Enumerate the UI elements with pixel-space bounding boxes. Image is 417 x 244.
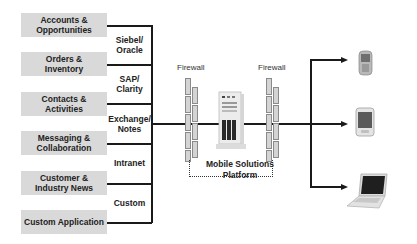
source-label: Contacts & [42, 94, 87, 104]
connector-line [107, 183, 152, 185]
connector-line [107, 222, 152, 224]
pda-icon [355, 107, 375, 137]
connector-line [107, 25, 152, 27]
source-label: Custom Application [24, 217, 104, 227]
source-label-2: Industry News [35, 183, 93, 193]
arrow-head-icon [341, 121, 348, 127]
platform-label: Mobile SolutionsPlatform [200, 159, 280, 181]
source-label: Orders & [46, 54, 82, 64]
source-label-2: Activities [45, 104, 83, 114]
arrow-line-laptop [310, 186, 342, 188]
system-label-custom: Custom [108, 198, 151, 208]
system-label-siebel: Siebel/Oracle [108, 35, 151, 55]
source-box-customer-news: Customer &Industry News [21, 171, 107, 195]
mobile-phone-icon [357, 50, 374, 76]
connector-line [107, 103, 152, 105]
laptop-icon [345, 172, 393, 210]
source-box-custom-app: Custom Application [21, 210, 107, 234]
server-icon [216, 90, 246, 152]
source-box-orders: Orders &Inventory [21, 52, 107, 76]
system-label-sap: SAP/Clarity [108, 74, 151, 94]
system-label-exchange: Exchange/Notes [108, 114, 151, 134]
source-label-2: Opportunities [36, 25, 92, 35]
source-label: Accounts & [40, 15, 87, 25]
arrow-line-pda [310, 123, 342, 125]
firewall-label-left: Firewall [177, 63, 205, 72]
source-box-accounts: Accounts &Opportunities [21, 13, 107, 37]
source-box-contacts: Contacts &Activities [21, 92, 107, 116]
arrow-line-phone [310, 59, 342, 61]
arrow-head-icon [341, 57, 348, 63]
source-label-2: Collaboration [37, 143, 92, 153]
source-label-2: Inventory [45, 64, 83, 74]
source-box-messaging: Messaging &Collaboration [21, 131, 107, 155]
source-label: Customer & [40, 173, 88, 183]
connector-line [107, 64, 152, 66]
source-label: Messaging & [38, 133, 90, 143]
system-label-intranet: Intranet [108, 158, 151, 168]
firewall-label-right: Firewall [258, 63, 286, 72]
connector-line [107, 143, 152, 145]
